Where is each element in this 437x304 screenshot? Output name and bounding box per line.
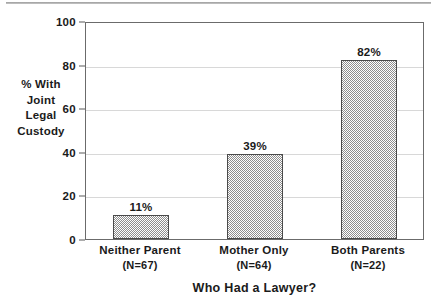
x-axis-category-labels: Neither Parent (N=67) Mother Only (N=64)… xyxy=(85,243,424,283)
x-category-n-mother-only: (N=64) xyxy=(219,258,288,273)
x-category-neither-parent: Neither Parent (N=67) xyxy=(99,243,180,273)
bar-value-neither-parent: 11% xyxy=(130,201,153,213)
bar-mother-only[interactable]: 39% xyxy=(227,154,283,239)
x-category-label-mother-only: Mother Only xyxy=(219,244,288,256)
x-category-mother-only: Mother Only (N=64) xyxy=(219,243,288,273)
y-tick-label-20: 20 xyxy=(63,190,76,202)
bar-value-both-parents: 82% xyxy=(357,46,381,58)
bar-value-mother-only: 39% xyxy=(243,140,267,152)
y-tick-label-0: 0 xyxy=(69,234,76,246)
bar-both-parents[interactable]: 82% xyxy=(341,60,397,239)
x-category-label-neither-parent: Neither Parent xyxy=(99,244,180,256)
x-category-n-both-parents: (N=22) xyxy=(331,258,405,273)
y-axis: 100 80 60 40 20 0 xyxy=(0,0,85,304)
plot-area: 11% 39% 82% xyxy=(85,22,424,240)
y-tick-label-40: 40 xyxy=(63,147,76,159)
bar-neither-parent[interactable]: 11% xyxy=(113,215,169,239)
y-tick-label-100: 100 xyxy=(56,16,76,28)
x-category-label-both-parents: Both Parents xyxy=(331,244,405,256)
y-tick-label-60: 60 xyxy=(63,103,76,115)
x-category-n-neither-parent: (N=67) xyxy=(99,258,180,273)
x-category-both-parents: Both Parents (N=22) xyxy=(331,243,405,273)
x-axis-title: Who Had a Lawyer? xyxy=(85,281,424,295)
bar-chart-figure: % With Joint Legal Custody 100 80 60 40 … xyxy=(0,0,437,304)
y-tick-label-80: 80 xyxy=(63,60,76,72)
